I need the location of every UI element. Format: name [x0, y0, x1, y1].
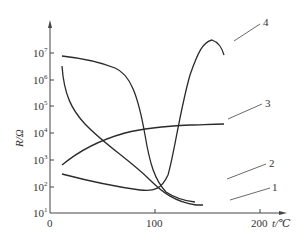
curve-label-1: 1	[272, 181, 278, 193]
chart: 107 106 105 104 103 102 101 R/Ω 0 100 20…	[0, 0, 304, 240]
y-tick-label-1e7: 107	[33, 46, 48, 59]
y-tick-label-1e6: 106	[33, 73, 48, 86]
leader-2	[227, 164, 266, 179]
x-axis-arrow-icon	[279, 211, 287, 215]
x-tick-label-100: 100	[146, 217, 163, 229]
curve-label-3: 3	[265, 97, 271, 109]
y-ticks	[50, 53, 54, 187]
x-axis-label: t/℃	[272, 217, 291, 229]
x-ticks	[155, 209, 260, 213]
x-tick-label-200: 200	[251, 217, 268, 229]
curve-3	[62, 124, 224, 165]
leader-1	[230, 188, 270, 200]
curve-4	[62, 40, 224, 190]
leader-4	[234, 24, 260, 41]
curve-label-2: 2	[269, 157, 275, 169]
x-tick-label-0: 0	[47, 217, 53, 229]
y-tick-label-1e5: 105	[33, 99, 48, 112]
y-tick-label-1e1: 101	[33, 206, 48, 219]
y-tick-label-1e2: 102	[33, 180, 48, 193]
leader-3	[228, 104, 262, 119]
y-axis-label: R/Ω	[13, 129, 25, 148]
curve-2	[62, 56, 195, 202]
y-tick-label-1e4: 104	[33, 126, 48, 139]
curve-label-4: 4	[263, 16, 269, 28]
y-tick-label-1e3: 103	[33, 153, 48, 166]
y-axis-arrow-icon	[48, 20, 52, 28]
